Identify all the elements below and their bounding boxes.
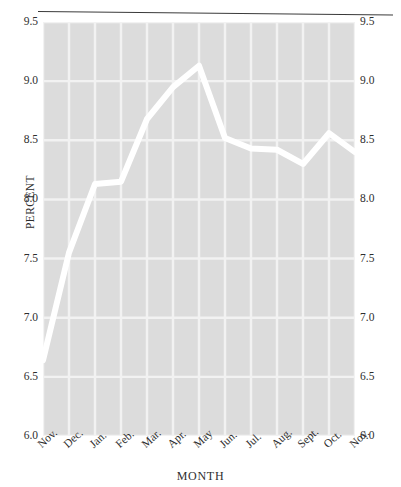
y-tick-label-right: 7.0 <box>360 312 374 324</box>
y-tick-label-right: 8.5 <box>360 134 374 146</box>
chart-figure: 6.06.57.07.58.08.59.09.5 6.06.57.07.58.0… <box>0 0 401 487</box>
y-tick-label-right: 9.0 <box>360 75 374 87</box>
y-tick-label-left: 7.5 <box>24 253 38 265</box>
y-tick-label-left: 6.5 <box>24 371 38 383</box>
y-tick-label-left: 7.0 <box>24 312 38 324</box>
x-axis-title: MONTH <box>0 469 401 484</box>
y-tick-label-left: 8.5 <box>24 134 38 146</box>
plot-area <box>43 22 355 436</box>
y-axis-title: PERCENT <box>24 162 36 242</box>
line-series <box>43 22 355 436</box>
y-tick-label-right: 8.0 <box>360 193 374 205</box>
top-horizontal-rule <box>38 11 393 15</box>
y-tick-label-left: 9.5 <box>24 16 38 28</box>
y-tick-label-right: 7.5 <box>360 253 374 265</box>
y-tick-label-right: 9.5 <box>360 16 374 28</box>
y-tick-label-left: 9.0 <box>24 75 38 87</box>
y-tick-label-right: 6.5 <box>360 371 374 383</box>
